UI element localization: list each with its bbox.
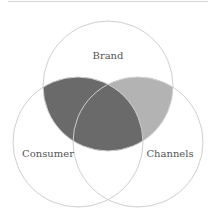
brand-label: Brand [93, 50, 125, 61]
brand-consumer-overlap [13, 77, 143, 207]
venn-diagram: Brand Consumer Channels [0, 0, 216, 219]
channels-label: Channels [146, 148, 193, 159]
consumer-label: Consumer [22, 148, 74, 159]
